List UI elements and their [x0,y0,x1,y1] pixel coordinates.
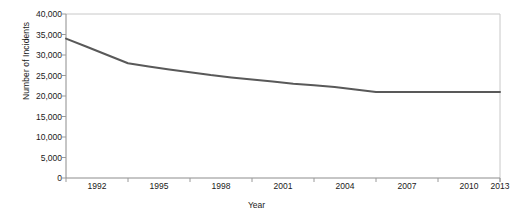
plot-frame [66,14,500,178]
y-tick-label: 5,000 [18,154,62,163]
x-axis-title: Year [0,200,513,210]
x-tick-label: 1992 [77,182,117,191]
x-tick-label: 2001 [263,182,303,191]
y-tick-label: 10,000 [18,133,62,142]
y-axis-title: Number of Incidents [21,0,31,131]
x-tick-label: 2004 [325,182,365,191]
x-tick-label: 1995 [139,182,179,191]
x-tick-label: 2013 [480,182,513,191]
x-tick-label: 1998 [201,182,241,191]
y-tick-label: 0 [18,174,62,183]
line-chart: 40,00035,00030,00025,00020,00015,00010,0… [0,0,513,221]
x-tick-label: 2007 [387,182,427,191]
data-series-line [66,39,500,92]
